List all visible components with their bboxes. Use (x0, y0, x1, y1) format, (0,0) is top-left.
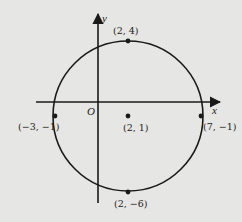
origin-label: O (87, 105, 95, 117)
diagram-canvas: y x O (2, 4) (−3, −1) (2, 1) (7, −1) (2,… (0, 0, 242, 222)
x-axis-label: x (211, 104, 217, 116)
point-bottom (126, 190, 131, 195)
point-center (126, 114, 131, 119)
point-left (53, 114, 58, 119)
label-bottom-point: (2, −6) (114, 198, 148, 209)
label-left-point: (−3, −1) (18, 121, 59, 132)
point-top (126, 39, 131, 44)
y-axis-label: y (101, 12, 107, 24)
coordinate-plane: y x O (2, 4) (−3, −1) (2, 1) (7, −1) (2,… (0, 0, 242, 222)
label-right-point: (7, −1) (203, 121, 237, 132)
label-top-point: (2, 4) (113, 25, 139, 36)
point-right (199, 114, 204, 119)
label-center-point: (2, 1) (123, 122, 149, 133)
